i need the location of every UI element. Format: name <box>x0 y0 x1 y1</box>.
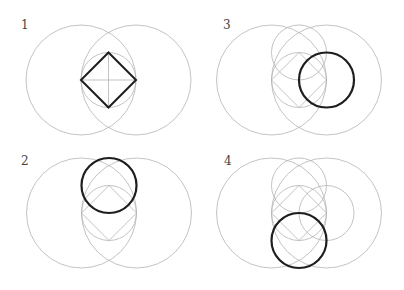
construction-drawing <box>0 0 404 290</box>
diagram-stage: 1 2 3 4 <box>0 0 404 290</box>
panel-label-4: 4 <box>224 155 232 167</box>
panel-label-2: 2 <box>21 155 29 167</box>
panel-label-1: 1 <box>21 19 29 31</box>
panel-label-3: 3 <box>223 19 231 31</box>
